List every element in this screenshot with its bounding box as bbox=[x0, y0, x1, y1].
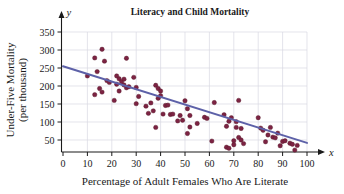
data-point bbox=[95, 69, 99, 73]
data-point bbox=[180, 118, 184, 122]
data-point bbox=[290, 142, 294, 146]
y-tick-label: 350 bbox=[40, 27, 55, 38]
data-point bbox=[93, 56, 97, 60]
data-point bbox=[161, 112, 165, 116]
x-tick-label: 40 bbox=[156, 158, 166, 169]
x-axis-label: Percentage of Adult Females Who Are Lite… bbox=[82, 175, 288, 187]
data-point bbox=[112, 98, 116, 102]
data-point bbox=[122, 77, 126, 81]
data-point bbox=[134, 101, 138, 105]
data-points-group bbox=[85, 47, 299, 152]
data-point bbox=[149, 101, 153, 105]
x-axis-arrowhead bbox=[318, 149, 325, 155]
data-point bbox=[146, 111, 150, 115]
y-tick-label: 300 bbox=[40, 45, 55, 56]
figure-container: 0102030405060708090100501001502002503003… bbox=[0, 0, 344, 194]
data-point bbox=[241, 141, 245, 145]
data-point bbox=[171, 112, 175, 116]
data-point bbox=[188, 125, 192, 129]
data-point bbox=[93, 92, 97, 96]
data-point bbox=[268, 125, 272, 129]
y-tick-label: 50 bbox=[45, 135, 55, 146]
x-tick-label: 50 bbox=[180, 158, 190, 169]
axes-group bbox=[59, 11, 326, 155]
data-point bbox=[158, 89, 162, 93]
data-point bbox=[212, 100, 216, 104]
data-point bbox=[166, 103, 170, 107]
data-point bbox=[100, 90, 104, 94]
scatter-chart: 0102030405060708090100501001502002503003… bbox=[0, 0, 344, 194]
data-point bbox=[256, 115, 260, 119]
y-axis-variable-name: y bbox=[66, 7, 72, 18]
data-point bbox=[295, 143, 299, 147]
data-point bbox=[117, 89, 121, 93]
data-point bbox=[144, 104, 148, 108]
data-point bbox=[102, 59, 106, 63]
x-tick-label: 0 bbox=[61, 158, 66, 169]
x-tick-label: 20 bbox=[107, 158, 117, 169]
chart-title: Literacy and Child Mortality bbox=[131, 7, 250, 17]
data-point bbox=[136, 94, 140, 98]
x-tick-label: 60 bbox=[204, 158, 214, 169]
data-point bbox=[100, 47, 104, 51]
data-point bbox=[273, 136, 277, 140]
data-point bbox=[124, 56, 128, 60]
data-point bbox=[232, 139, 236, 143]
data-point bbox=[263, 140, 267, 144]
data-point bbox=[210, 139, 214, 143]
x-tick-label: 70 bbox=[229, 158, 239, 169]
data-point bbox=[234, 125, 238, 129]
x-tick-label: 30 bbox=[131, 158, 141, 169]
data-point bbox=[278, 144, 282, 148]
data-point bbox=[151, 109, 155, 113]
data-point bbox=[266, 133, 270, 137]
data-point bbox=[227, 146, 231, 150]
data-point bbox=[205, 116, 209, 120]
data-point bbox=[293, 148, 297, 152]
data-point bbox=[236, 98, 240, 102]
x-tick-label: 100 bbox=[300, 158, 315, 169]
data-point bbox=[183, 99, 187, 103]
data-point bbox=[185, 106, 189, 110]
data-point bbox=[195, 121, 199, 125]
data-point bbox=[178, 113, 182, 117]
y-tick-label: 200 bbox=[40, 81, 55, 92]
y-tick-label: 150 bbox=[40, 99, 55, 110]
data-point bbox=[232, 142, 236, 146]
data-point bbox=[283, 139, 287, 143]
data-point bbox=[175, 119, 179, 123]
data-point bbox=[224, 124, 228, 128]
labels-group: 0102030405060708090100501001502002503003… bbox=[4, 7, 334, 187]
gridlines-group bbox=[62, 32, 308, 152]
y-tick-label: 100 bbox=[40, 117, 55, 128]
y-axis-arrowhead bbox=[59, 11, 65, 18]
x-tick-label: 80 bbox=[253, 158, 263, 169]
x-tick-label: 90 bbox=[278, 158, 288, 169]
data-point bbox=[185, 131, 189, 135]
y-tick-label: 250 bbox=[40, 63, 55, 74]
y-axis-label-line1: Under-Five Mortality bbox=[4, 42, 16, 137]
y-axis-label-line2: (per thousand) bbox=[16, 58, 29, 122]
x-axis-variable-name: x bbox=[328, 147, 334, 158]
data-point bbox=[132, 75, 136, 79]
x-tick-label: 10 bbox=[82, 158, 92, 169]
data-point bbox=[188, 113, 192, 117]
data-point bbox=[154, 125, 158, 129]
data-point bbox=[239, 126, 243, 130]
